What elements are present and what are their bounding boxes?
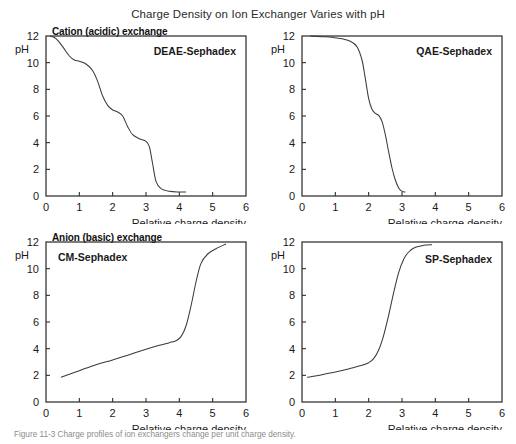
plot-qae-sephadex: 0123456024681012Relative charge densityp… [256, 28, 516, 224]
y-tick-label: 2 [33, 163, 39, 175]
data-curve [50, 36, 186, 192]
x-tick-label: 1 [76, 201, 82, 213]
y-tick-label: 10 [27, 57, 39, 69]
series-annotation: DEAE-Sephadex [154, 45, 236, 57]
chart-panel-sp: 0123456024681012Relative charge densityp… [256, 234, 516, 430]
y-axis-label: pH [271, 249, 285, 261]
y-tick-label: 12 [27, 30, 39, 42]
x-tick-label: 6 [499, 201, 505, 213]
y-tick-label: 8 [33, 289, 39, 301]
y-axis-label: pH [271, 43, 285, 55]
x-tick-label: 0 [43, 407, 49, 419]
plot-sp-sephadex: 0123456024681012Relative charge densityp… [256, 234, 516, 430]
x-tick-label: 4 [432, 201, 438, 213]
x-tick-label: 5 [210, 201, 216, 213]
x-tick-label: 5 [466, 201, 472, 213]
x-tick-label: 2 [110, 201, 116, 213]
x-tick-label: 4 [432, 407, 438, 419]
x-tick-label: 3 [399, 407, 405, 419]
x-tick-label: 6 [243, 201, 249, 213]
plot-frame [46, 242, 246, 402]
x-tick-label: 5 [466, 407, 472, 419]
figure-title: Charge Density on Ion Exchanger Varies w… [0, 8, 516, 20]
y-tick-label: 10 [283, 263, 295, 275]
data-curve [310, 36, 405, 192]
data-curve [307, 245, 432, 378]
y-tick-label: 10 [283, 57, 295, 69]
chart-panel-cm: 0123456024681012Relative charge densityp… [0, 234, 260, 430]
x-tick-label: 3 [143, 407, 149, 419]
plot-frame [46, 36, 246, 196]
x-axis-label: Relative charge density [132, 423, 247, 430]
x-tick-label: 2 [110, 407, 116, 419]
y-tick-label: 6 [289, 110, 295, 122]
x-tick-label: 0 [299, 407, 305, 419]
plot-frame [302, 36, 502, 196]
y-tick-label: 12 [283, 236, 295, 248]
y-tick-label: 0 [289, 190, 295, 202]
x-tick-label: 1 [332, 201, 338, 213]
data-curve [61, 244, 226, 377]
y-tick-label: 4 [289, 343, 295, 355]
chart-panel-deae: 0123456024681012Relative charge densityp… [0, 28, 260, 224]
y-tick-label: 10 [27, 263, 39, 275]
y-tick-label: 2 [289, 163, 295, 175]
y-tick-label: 8 [289, 289, 295, 301]
x-tick-label: 2 [366, 201, 372, 213]
y-tick-label: 6 [33, 316, 39, 328]
chart-panel-qae: 0123456024681012Relative charge densityp… [256, 28, 516, 224]
y-tick-label: 4 [289, 137, 295, 149]
series-annotation: CM-Sephadex [58, 251, 128, 263]
y-tick-label: 2 [289, 369, 295, 381]
y-tick-label: 0 [33, 396, 39, 408]
x-tick-label: 3 [399, 201, 405, 213]
x-tick-label: 4 [176, 407, 182, 419]
y-tick-label: 12 [283, 30, 295, 42]
y-tick-label: 2 [33, 369, 39, 381]
y-tick-label: 6 [33, 110, 39, 122]
y-tick-label: 6 [289, 316, 295, 328]
y-tick-label: 12 [27, 236, 39, 248]
plot-deae-sephadex: 0123456024681012Relative charge densityp… [0, 28, 260, 224]
y-tick-label: 4 [33, 343, 39, 355]
y-tick-label: 0 [33, 190, 39, 202]
figure-caption: Figure 11-3 Charge profiles of ion excha… [14, 430, 514, 442]
y-axis-label: pH [15, 249, 29, 261]
x-tick-label: 2 [366, 407, 372, 419]
series-annotation: SP-Sephadex [425, 253, 492, 265]
plot-cm-sephadex: 0123456024681012Relative charge densityp… [0, 234, 260, 430]
x-tick-label: 5 [210, 407, 216, 419]
x-axis-label: Relative charge density [388, 217, 503, 224]
series-annotation: QAE-Sephadex [416, 45, 492, 57]
x-axis-label: Relative charge density [388, 423, 503, 430]
x-tick-label: 0 [43, 201, 49, 213]
plot-frame [302, 242, 502, 402]
y-tick-label: 4 [33, 137, 39, 149]
x-tick-label: 1 [76, 407, 82, 419]
x-tick-label: 6 [499, 407, 505, 419]
x-tick-label: 6 [243, 407, 249, 419]
y-axis-label: pH [15, 43, 29, 55]
x-tick-label: 4 [176, 201, 182, 213]
x-axis-label: Relative charge density [132, 217, 247, 224]
y-tick-label: 0 [289, 396, 295, 408]
y-tick-label: 8 [33, 83, 39, 95]
y-tick-label: 8 [289, 83, 295, 95]
x-tick-label: 3 [143, 201, 149, 213]
x-tick-label: 0 [299, 201, 305, 213]
x-tick-label: 1 [332, 407, 338, 419]
